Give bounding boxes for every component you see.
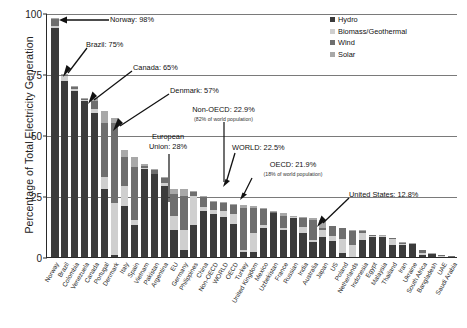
bar-segment xyxy=(438,256,445,257)
legend-label: Solar xyxy=(338,49,355,61)
bar-segment xyxy=(309,242,316,257)
bar-segment xyxy=(51,19,58,26)
bar-slot xyxy=(110,14,120,257)
bar-pakistan[interactable] xyxy=(151,169,158,257)
bar-bangladesh[interactable] xyxy=(428,253,435,257)
bar-canada[interactable] xyxy=(91,98,98,257)
x-label-slot: Netherlands xyxy=(348,260,358,326)
bar-turkey[interactable] xyxy=(240,205,247,257)
bar-vietnam[interactable] xyxy=(141,164,148,257)
bar-poland[interactable] xyxy=(339,228,346,257)
bar-south-africa[interactable] xyxy=(419,250,426,257)
legend-swatch-icon xyxy=(330,29,335,34)
bar-segment xyxy=(409,244,416,257)
bar-indonesia[interactable] xyxy=(359,230,366,257)
bar-segment xyxy=(220,217,227,257)
bar-segment xyxy=(280,230,287,257)
legend-swatch-icon xyxy=(330,17,335,22)
bar-malaysia[interactable] xyxy=(379,235,386,257)
x-label-slot: Vietnam xyxy=(139,260,149,326)
annotation-european-union-leader xyxy=(167,154,171,202)
bar-segment xyxy=(121,150,128,157)
legend-item[interactable]: Biomass/Geothermal xyxy=(330,26,407,38)
bar-segment xyxy=(180,230,187,250)
legend-swatch-icon xyxy=(330,52,335,57)
legend-label: Wind xyxy=(338,37,355,49)
legend-label: Hydro xyxy=(338,14,358,26)
bar-slot xyxy=(50,14,60,257)
bar-segment xyxy=(240,252,247,257)
bar-spain[interactable] xyxy=(131,157,138,257)
bar-segment xyxy=(190,225,197,257)
bar-segment xyxy=(230,224,237,257)
x-label-slot: Japan xyxy=(318,260,328,326)
bar-world[interactable] xyxy=(220,202,227,257)
bar-uae[interactable] xyxy=(438,255,445,257)
bar-denmark[interactable] xyxy=(111,118,118,257)
legend-item[interactable]: Solar xyxy=(330,49,407,61)
bar-brazil[interactable] xyxy=(61,74,68,257)
bar-portugal[interactable] xyxy=(101,111,108,257)
bar-united-kingdom[interactable] xyxy=(250,206,257,257)
x-axis-labels: NorwayBrazilColombiaVenezuelaCanadaPortu… xyxy=(46,260,457,326)
x-label-slot: Canada xyxy=(89,260,99,326)
x-label-slot: Denmark xyxy=(109,260,119,326)
bar-eu[interactable] xyxy=(170,189,177,257)
bar-mexico[interactable] xyxy=(260,208,267,257)
annotation-brazil: Brazil: 75% xyxy=(86,40,123,50)
legend-item[interactable]: Hydro xyxy=(330,14,407,26)
bar-segment xyxy=(121,206,128,257)
bar-slot xyxy=(417,14,427,257)
bar-iran[interactable] xyxy=(399,242,406,257)
bar-segment xyxy=(349,231,356,245)
bar-india[interactable] xyxy=(299,217,306,257)
bar-russian[interactable] xyxy=(290,216,297,257)
bar-egypt[interactable] xyxy=(369,235,376,257)
bar-segment xyxy=(111,203,118,254)
x-label-slot: Saudi Arabia xyxy=(447,260,457,326)
legend-swatch-icon xyxy=(330,40,335,45)
bar-philippines[interactable] xyxy=(190,191,197,257)
bar-slot xyxy=(288,14,298,257)
bar-slot xyxy=(407,14,417,257)
bar-segment xyxy=(141,169,148,257)
bar-uzbekistan[interactable] xyxy=(270,211,277,257)
bar-venezuela[interactable] xyxy=(81,98,88,257)
bar-segment xyxy=(51,28,58,257)
bar-italy[interactable] xyxy=(121,150,128,257)
x-label-slot: Italy xyxy=(119,260,129,326)
annotation-united-states: United States: 12.8% xyxy=(349,190,418,200)
bar-segment xyxy=(71,91,78,257)
bar-thailand[interactable] xyxy=(389,238,396,257)
bar-segment xyxy=(290,218,297,257)
bar-segment xyxy=(319,230,326,237)
annotation-norway: Norway: 98% xyxy=(110,15,154,25)
bar-norway[interactable] xyxy=(51,18,58,257)
x-label-slot: India xyxy=(298,260,308,326)
bar-segment xyxy=(319,237,326,257)
bar-segment xyxy=(200,197,207,207)
bar-slot xyxy=(258,14,268,257)
x-label-slot: Australia xyxy=(308,260,318,326)
bar-saudi-arabia[interactable] xyxy=(448,256,455,257)
bar-segment xyxy=(379,237,386,257)
y-axis-tick-mark xyxy=(43,258,47,259)
bar-germany[interactable] xyxy=(180,189,187,257)
legend-item[interactable]: Wind xyxy=(330,37,407,49)
bar-oecd[interactable] xyxy=(230,204,237,257)
bar-segment xyxy=(131,157,138,167)
bar-segment xyxy=(428,254,435,257)
bar-us[interactable] xyxy=(329,226,336,257)
bar-ukraine[interactable] xyxy=(409,243,416,257)
annotation-brazil-arrow xyxy=(62,46,90,78)
bar-france[interactable] xyxy=(280,213,287,257)
bar-segment xyxy=(250,208,257,232)
bar-segment xyxy=(389,245,396,257)
chart-root: Percentage of Total Electricity Generati… xyxy=(0,0,467,328)
bar-china[interactable] xyxy=(200,196,207,257)
bar-segment xyxy=(121,157,128,186)
bar-segment xyxy=(151,174,158,257)
bar-non-oecd[interactable] xyxy=(210,201,217,257)
bar-netherlands[interactable] xyxy=(349,230,356,257)
bar-colombia[interactable] xyxy=(71,86,78,257)
